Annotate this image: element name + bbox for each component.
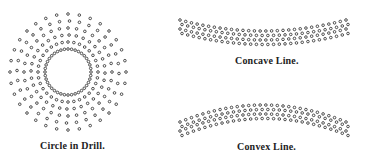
soldier-dot [45, 49, 48, 52]
soldier-dot [345, 130, 348, 133]
soldier-dot [179, 28, 182, 31]
soldier-dot [261, 108, 264, 111]
circle-in-drill-formation [9, 13, 128, 132]
soldier-dot [204, 28, 207, 31]
soldier-dot [287, 105, 290, 108]
soldier-dot [299, 27, 302, 30]
soldier-dot [238, 110, 241, 113]
soldier-dot [330, 128, 333, 131]
soldier-dot [42, 107, 45, 110]
soldier-dot [44, 71, 47, 74]
soldier-dot [221, 122, 224, 125]
soldier-dot [267, 34, 270, 37]
soldier-dot [341, 132, 344, 135]
soldier-dot [204, 37, 207, 40]
soldier-dot [333, 116, 336, 119]
soldier-dot [318, 29, 321, 32]
soldier-dot [341, 25, 344, 28]
soldier-dot [50, 96, 53, 99]
soldier-dot [307, 113, 310, 116]
soldier-dot [115, 103, 118, 106]
soldier-dot [18, 38, 21, 41]
soldier-dot [44, 74, 47, 77]
soldier-dot [78, 98, 81, 101]
soldier-dot [77, 50, 80, 53]
soldier-dot [74, 93, 77, 96]
soldier-dot [67, 101, 70, 104]
soldier-dot [270, 30, 273, 33]
soldier-dot [101, 58, 104, 61]
soldier-dot [94, 114, 97, 117]
soldier-dot [110, 79, 113, 82]
soldier-dot [80, 89, 83, 92]
soldier-dot [219, 117, 222, 120]
soldier-dot [259, 39, 262, 42]
soldier-dot [186, 123, 189, 126]
soldier-dot [265, 30, 268, 33]
soldier-dot [99, 22, 102, 25]
soldier-dot [50, 54, 53, 57]
soldier-dot [37, 49, 40, 52]
soldier-dot [75, 28, 78, 31]
soldier-dot [255, 43, 258, 46]
soldier-dot [287, 29, 290, 32]
soldier-dot [339, 118, 342, 121]
soldier-dot [305, 117, 308, 120]
soldier-dot [312, 30, 315, 33]
soldier-dot [270, 113, 273, 116]
soldier-dot [236, 29, 239, 32]
soldier-dot [42, 54, 45, 57]
soldier-dot [253, 104, 256, 107]
soldier-dot [84, 30, 87, 33]
soldier-dot [310, 119, 313, 122]
soldier-dot [295, 111, 298, 114]
soldier-dot [37, 77, 40, 80]
soldier-dot [284, 109, 287, 112]
soldier-dot [63, 48, 66, 51]
soldier-dot [207, 111, 210, 114]
soldier-dot [100, 86, 103, 89]
soldier-dot [312, 123, 315, 126]
soldier-dot [335, 121, 338, 124]
soldier-dot [301, 121, 304, 124]
soldier-dot [282, 38, 285, 41]
soldier-dot [261, 117, 264, 120]
soldier-dot [347, 32, 350, 35]
soldier-dot [272, 34, 275, 37]
soldier-dot [89, 124, 92, 127]
soldier-dot [316, 34, 319, 37]
concave-line-formation [179, 19, 350, 46]
soldier-dot [110, 62, 113, 65]
soldier-dot [330, 36, 333, 39]
soldier-dot [186, 132, 189, 135]
soldier-dot [89, 78, 92, 81]
soldier-dot [307, 40, 310, 43]
soldier-dot [184, 118, 187, 121]
soldier-dot [190, 125, 193, 128]
soldier-dot [198, 36, 201, 39]
soldier-dot [70, 48, 73, 51]
soldier-dot [295, 42, 298, 45]
soldier-dot [328, 123, 331, 126]
soldier-dot [215, 114, 218, 117]
soldier-dot [61, 41, 64, 44]
soldier-dot [30, 77, 33, 80]
soldier-dot [50, 46, 53, 49]
soldier-dot [10, 59, 13, 62]
soldier-dot [10, 82, 13, 85]
soldier-dot [318, 116, 321, 119]
soldier-dot [213, 26, 216, 29]
soldier-dot [224, 27, 227, 30]
soldier-dot [70, 93, 73, 96]
soldier-dot [98, 102, 101, 105]
soldier-dot [40, 27, 43, 30]
soldier-dot [244, 118, 247, 121]
soldier-dot [23, 98, 26, 101]
soldier-dot [310, 35, 313, 38]
soldier-dot [224, 107, 227, 110]
soldier-dot [249, 118, 252, 121]
soldier-dot [91, 34, 94, 37]
soldier-dot [242, 38, 245, 41]
soldier-dot [98, 51, 101, 54]
soldier-dot [226, 112, 229, 115]
